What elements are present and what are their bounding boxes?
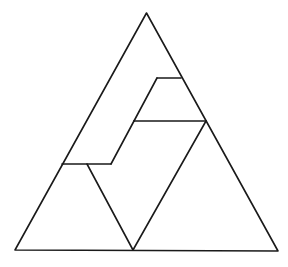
upper-slant-line <box>134 78 157 121</box>
dissected-triangle-diagram <box>0 0 288 267</box>
dissection-lines <box>62 78 206 250</box>
inner-left-diagonal-line <box>87 164 133 250</box>
outer-triangle <box>15 13 278 251</box>
middle-slant-line <box>111 121 134 164</box>
inner-right-diagonal-line <box>133 121 206 250</box>
